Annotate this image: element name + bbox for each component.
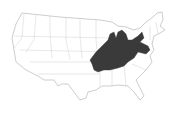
us-range-map: [0, 0, 175, 118]
us-outline: [12, 12, 165, 100]
